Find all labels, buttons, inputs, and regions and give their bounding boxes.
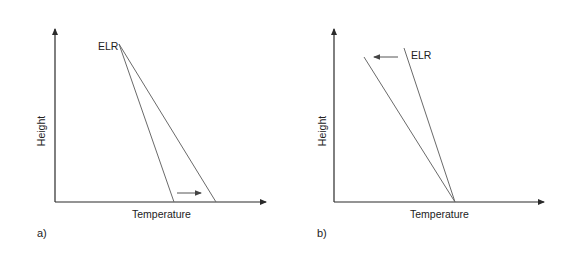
panel-b: ELR Temperature Height b)	[316, 29, 544, 239]
elr-line	[119, 44, 174, 202]
panel-label: a)	[37, 227, 47, 239]
x-axis-label: Temperature	[410, 208, 469, 220]
figure-canvas: ELR Temperature Height a) ELR Temperatur…	[0, 0, 583, 258]
elr-label: ELR	[98, 40, 119, 52]
y-axis-label: Height	[316, 116, 328, 146]
panel-a: ELR Temperature Height a)	[35, 29, 266, 239]
panel-label: b)	[317, 227, 327, 239]
y-axis-label: Height	[35, 116, 47, 146]
elr-line	[404, 48, 455, 202]
elr-label: ELR	[411, 49, 432, 61]
x-axis-label: Temperature	[132, 208, 191, 220]
shifted-line	[364, 57, 455, 202]
shifted-line	[119, 44, 216, 202]
